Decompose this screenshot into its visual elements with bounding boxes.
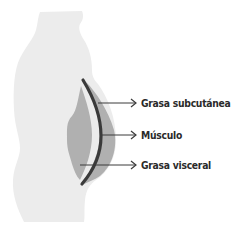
- label-subcutaneous-fat: Grasa subcutánea: [141, 97, 231, 109]
- abdominal-fat-diagram: [0, 0, 232, 238]
- label-visceral-fat: Grasa visceral: [141, 159, 211, 171]
- label-muscle: Músculo: [141, 129, 182, 141]
